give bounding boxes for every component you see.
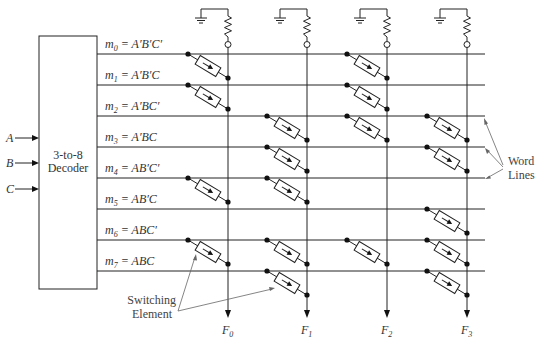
terminal-icon (304, 42, 310, 48)
switch-body-icon (354, 87, 380, 108)
output-f3-label: F3 (460, 323, 472, 339)
svg-text:m6 = ABC′: m6 = ABC′ (105, 223, 157, 239)
svg-text:m2 = A′BC′: m2 = A′BC′ (105, 99, 160, 115)
switching-element-m1-f0 (185, 82, 230, 111)
resistor-icon (225, 16, 232, 41)
switch-body-icon (274, 149, 300, 170)
output-labels: F0 F1 F2 F3 (221, 323, 472, 339)
output-arrow-icon (384, 310, 390, 318)
switching-element-m4-f0 (185, 175, 230, 204)
switching-element-m0-f2 (344, 51, 389, 80)
arrow-icon (484, 118, 488, 125)
switch-body-icon (195, 242, 221, 263)
switch-body-icon (274, 273, 300, 294)
arrow-icon (193, 254, 197, 261)
switching-element-m7-f1 (264, 268, 309, 297)
input-b-label: B (6, 156, 14, 170)
switching-element-label-2: Element (132, 307, 173, 321)
switching-element-m4-f1 (264, 175, 309, 204)
ground-icon (274, 18, 286, 23)
arrow-icon (269, 287, 275, 291)
resistor-icon (464, 16, 471, 41)
svg-text:m1 = A′B′C: m1 = A′B′C (105, 68, 160, 84)
decoder-label-line2: Decoder (48, 161, 89, 175)
terminal-icon (225, 42, 231, 48)
ground-icon (434, 18, 446, 23)
input-b-arrow-icon (32, 160, 39, 166)
svg-text:m5 = AB′C: m5 = AB′C (105, 192, 158, 208)
word-lines-annotation: Word Lines (484, 118, 535, 182)
switching-element-m6-f2 (344, 237, 389, 266)
ground-icon (195, 18, 207, 23)
ground-icon (354, 18, 366, 23)
output-arrow-icon (304, 310, 310, 318)
output-f1-label: F1 (300, 323, 312, 339)
decoder-label-line1: 3-to-8 (53, 148, 82, 162)
switch-body-icon (274, 180, 300, 201)
switch-body-icon (434, 273, 460, 294)
switch-body-icon (434, 242, 460, 263)
decoder-block: 3-to-8 Decoder (39, 36, 97, 289)
word-lines-label-2: Lines (508, 168, 535, 182)
input-c-label: C (6, 182, 15, 196)
word-lines: m0 = A′B′C′ m1 = A′B′C m2 = A′BC′ m3 = A… (97, 37, 485, 271)
switch-body-icon (354, 242, 380, 263)
output-f2-label: F2 (380, 323, 392, 339)
switch-body-icon (434, 149, 460, 170)
switching-element-m1-f2 (344, 82, 389, 111)
rom-decoder-diagram: 3-to-8 Decoder A B C m0 = A′B′C′ m1 = A′… (0, 0, 548, 344)
svg-text:m7 = ABC: m7 = ABC (105, 254, 155, 270)
terminal-icon (464, 42, 470, 48)
switch-body-icon (434, 211, 460, 232)
output-f0-label: F0 (221, 323, 233, 339)
input-a-arrow-icon (32, 135, 39, 141)
switch-body-icon (195, 56, 221, 77)
switching-element-m6-f3 (424, 237, 469, 266)
switch-body-icon (195, 87, 221, 108)
switch-body-icon (274, 118, 300, 139)
switching-element-m2-f1 (264, 113, 309, 142)
switching-element-label-1: Switching (127, 293, 176, 307)
switching-element-m6-f1 (264, 237, 309, 266)
resistor-icon (384, 16, 391, 41)
switching-element-m3-f1 (264, 144, 309, 173)
switching-element-m2-f3 (424, 113, 469, 142)
switch-body-icon (195, 180, 221, 201)
switch-body-icon (434, 118, 460, 139)
word-lines-label-1: Word (508, 154, 534, 168)
switch-body-icon (354, 56, 380, 77)
terminal-icon (384, 42, 390, 48)
switch-body-icon (274, 242, 300, 263)
word-line-m1: m1 = A′B′C (97, 68, 485, 85)
input-a-label: A (5, 131, 14, 145)
switching-element-m7-f3 (424, 268, 469, 297)
input-c-arrow-icon (32, 186, 39, 192)
svg-text:m3 = A′BC: m3 = A′BC (105, 130, 158, 146)
arrow-icon (485, 148, 490, 154)
svg-text:m0 = A′B′C′: m0 = A′B′C′ (105, 37, 162, 53)
switching-element-m3-f3 (424, 144, 469, 173)
switching-element-m0-f0 (185, 51, 230, 80)
switching-element-m2-f2 (344, 113, 389, 142)
output-arrow-icon (225, 310, 231, 318)
word-line-m0: m0 = A′B′C′ (97, 37, 485, 54)
output-arrow-icon (464, 310, 470, 318)
svg-text:m4 = AB′C′: m4 = AB′C′ (105, 161, 160, 177)
switch-body-icon (354, 118, 380, 139)
switching-element-m5-f3 (424, 206, 469, 235)
resistor-icon (304, 16, 311, 41)
switching-element-m6-f0 (185, 237, 230, 266)
decoder-inputs: A B C (5, 131, 39, 196)
